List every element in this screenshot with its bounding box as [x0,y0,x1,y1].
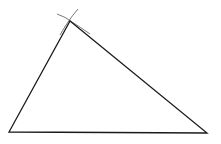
triangle [9,21,207,133]
construction-arcs [57,9,90,35]
triangle-construction-diagram [0,0,221,144]
